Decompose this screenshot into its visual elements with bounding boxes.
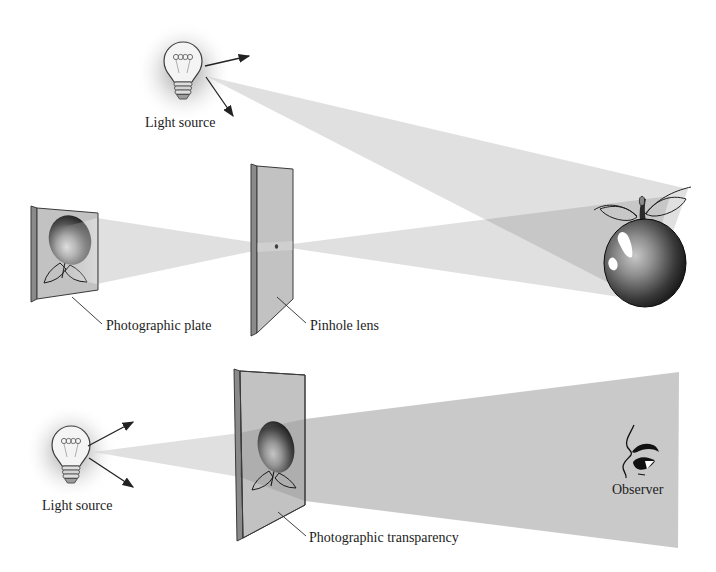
leader-photographic-plate bbox=[72, 297, 102, 324]
pinhole-plate-side-face bbox=[251, 164, 257, 336]
diagram-svg: Photographic plate Pinhole lens Light so… bbox=[0, 0, 716, 572]
plate-side-face bbox=[31, 206, 37, 302]
photographic-transparency-label: Photographic transparency bbox=[309, 530, 459, 545]
photographic-plate-label: Photographic plate bbox=[106, 318, 211, 333]
observer-label: Observer bbox=[612, 482, 664, 497]
light-source-top-label: Light source bbox=[145, 115, 215, 130]
light-source-bottom bbox=[25, 404, 133, 500]
pinhole-photography-figure: Photographic plate Pinhole lens Light so… bbox=[0, 0, 716, 572]
photographic-transparency-plate bbox=[234, 369, 305, 541]
beam-pinhole-to-plate bbox=[97, 218, 277, 284]
pinhole-lens-label: Pinhole lens bbox=[310, 318, 379, 333]
apple-stem-tip bbox=[639, 196, 644, 205]
projected-image-haze bbox=[60, 218, 97, 284]
light-source-bottom-label: Light source bbox=[42, 498, 112, 513]
light-source-top bbox=[136, 22, 249, 122]
photographic-plate bbox=[31, 206, 98, 302]
pinhole-dot bbox=[275, 244, 278, 248]
beam-transparency-to-observer bbox=[305, 372, 679, 548]
leader-photographic-transparency bbox=[278, 512, 306, 536]
pinhole-lens-plate bbox=[251, 164, 293, 336]
